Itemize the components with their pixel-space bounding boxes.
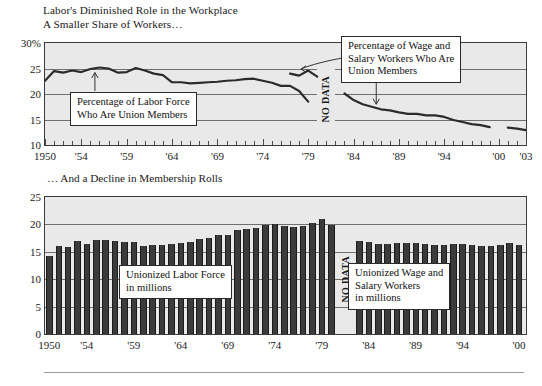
bar-chart-bar — [309, 223, 316, 334]
line-chart-tick-mark — [63, 141, 64, 145]
line-chart-series-3 — [508, 128, 526, 131]
bar-chart-bar — [506, 243, 513, 334]
line-chart-ytick-label: 20 — [0, 88, 41, 100]
line-chart-no-data-label: NO DATA — [320, 76, 331, 122]
figure-title-block: Labor's Diminished Role in the Workplace… — [43, 4, 238, 31]
line-chart-tick-mark — [462, 141, 463, 145]
callout-labor-force-line1: Percentage of Labor Force — [77, 96, 190, 109]
line-chart-xtick-label: '84 — [347, 150, 360, 162]
line-chart-tick-mark — [181, 141, 182, 145]
line-chart-tick-mark — [399, 139, 400, 145]
line-chart-tick-mark — [417, 141, 418, 145]
line-chart-tick-mark — [526, 139, 527, 145]
line-chart-tick-mark — [45, 139, 46, 145]
line-chart-tick-mark — [127, 139, 128, 145]
line-chart-ytick-label: 25 — [0, 63, 41, 75]
line-chart-tick-mark — [154, 141, 155, 145]
line-chart-tick-mark — [199, 141, 200, 145]
bar-chart-xtick-label: '94 — [456, 339, 469, 351]
line-chart-tick-mark — [172, 139, 173, 145]
bar-chart-bar — [93, 240, 100, 334]
bar-chart-bar — [243, 229, 250, 334]
line-chart-tick-mark — [81, 139, 82, 145]
line-chart-xtick-label: '59 — [120, 150, 133, 162]
callout-unionized-wage-salary: Unionized Wage and Salary Workers in mil… — [348, 263, 450, 310]
line-chart-tick-mark — [426, 141, 427, 145]
bar-chart-ytick-label: 20 — [0, 218, 41, 230]
bar-chart-xtick-label: '59 — [127, 339, 140, 351]
line-chart-tick-mark — [499, 139, 500, 145]
line-chart-tick-mark — [109, 141, 110, 145]
bar-chart-bar — [478, 246, 485, 334]
bar-chart-xtick-label: '79 — [315, 339, 328, 351]
bar-chart-bar — [253, 228, 260, 334]
bar-chart-xtick-label: '84 — [362, 339, 375, 351]
bar-chart-bar — [234, 230, 241, 334]
callout-unionized-labor-line2: in millions — [126, 282, 225, 295]
callout-unionized-wage-line1: Unionized Wage and — [355, 267, 443, 280]
line-chart-tick-mark — [372, 141, 373, 145]
line-chart-xtick-label: '64 — [166, 150, 179, 162]
bar-chart-xtick-label: '74 — [268, 339, 281, 351]
line-chart-tick-mark — [363, 141, 364, 145]
bar-chart-plot-area — [44, 196, 527, 335]
line-chart-tick-mark — [208, 141, 209, 145]
page-title: Labor's Diminished Role in the Workplace — [43, 4, 238, 18]
chart-subtitle-top: A Smaller Share of Workers… — [43, 18, 238, 32]
bar-chart-xtick-label: '00 — [512, 339, 525, 351]
line-chart-xtick-label: '74 — [256, 150, 269, 162]
line-chart-tick-mark — [317, 141, 318, 145]
callout-labor-force-line2: Who Are Union Members — [77, 109, 190, 122]
line-chart-tick-mark — [517, 141, 518, 145]
bar-chart-bar — [300, 226, 307, 335]
callout-wage-salary-line2: Salary Workers Who Are — [348, 53, 454, 66]
bar-chart-bar — [328, 225, 335, 334]
bar-chart-bar — [74, 241, 81, 334]
line-chart-xtick-label: '89 — [392, 150, 405, 162]
line-chart-tick-mark — [272, 141, 273, 145]
callout-unionized-labor-line1: Unionized Labor Force — [126, 269, 225, 282]
line-chart-tick-mark — [99, 141, 100, 145]
bar-chart-union-membership: NO DATA — [44, 196, 527, 335]
line-chart-tick-mark — [481, 141, 482, 145]
bar-chart-bar — [319, 219, 326, 334]
bar-chart-ytick-label: 5 — [0, 301, 41, 313]
line-chart-tick-mark — [408, 141, 409, 145]
line-chart-xtick-label: '69 — [211, 150, 224, 162]
line-chart-tick-mark — [354, 139, 355, 145]
line-chart-tick-mark — [136, 141, 137, 145]
line-chart-series-1 — [290, 71, 317, 77]
line-chart-ytick-label: 15 — [0, 114, 41, 126]
bar-chart-bar — [56, 246, 63, 334]
bar-chart-bar — [281, 226, 288, 335]
line-chart-tick-mark — [453, 141, 454, 145]
line-chart-series-2 — [344, 93, 489, 127]
line-chart-tick-mark — [254, 141, 255, 145]
callout-wage-salary: Percentage of Wage and Salary Workers Wh… — [341, 36, 461, 83]
bar-chart-xtick-label: '69 — [221, 339, 234, 351]
bar-chart-bar — [497, 245, 504, 334]
line-chart-ytick-label: 30% — [0, 37, 41, 49]
line-chart-tick-mark — [326, 141, 327, 145]
bar-chart-bar — [488, 246, 495, 334]
line-chart-tick-mark — [290, 141, 291, 145]
line-chart-tick-mark — [118, 141, 119, 145]
line-chart-tick-mark — [190, 141, 191, 145]
line-chart-tick-mark — [245, 141, 246, 145]
bar-chart-bar — [469, 245, 476, 334]
line-chart-xtick-label: '54 — [75, 150, 88, 162]
line-chart-tick-mark — [90, 141, 91, 145]
callout-unionized-wage-line3: in millions — [355, 292, 443, 305]
line-chart-xtick-label: '00 — [492, 150, 505, 162]
bar-chart-bar — [459, 244, 466, 334]
bar-chart-ytick-label: 25 — [0, 191, 41, 203]
callout-unionized-labor-force: Unionized Labor Force in millions — [119, 265, 232, 299]
bar-chart-bar — [262, 225, 269, 334]
line-chart-tick-mark — [435, 141, 436, 145]
line-chart-tick-mark — [508, 141, 509, 145]
callout-labor-force: Percentage of Labor Force Who Are Union … — [70, 92, 197, 126]
bar-chart-xtick-label: '54 — [80, 339, 93, 351]
line-chart-xtick-label: '03 — [520, 150, 533, 162]
bar-chart-ytick-label: 15 — [0, 246, 41, 258]
line-chart-tick-mark — [217, 139, 218, 145]
